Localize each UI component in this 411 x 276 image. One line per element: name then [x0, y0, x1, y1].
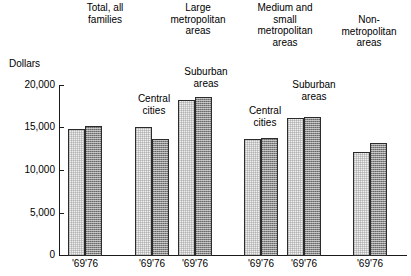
bar-76-total-all-families — [85, 126, 102, 256]
xtick-label-69: '69 — [182, 258, 195, 269]
y-tick-15000 — [60, 127, 64, 128]
xtick-label-69: '69 — [357, 258, 370, 269]
xtick-group-3: '69'76 — [167, 258, 223, 269]
xtick-label-69: '69 — [248, 258, 261, 269]
bar-69-large-central-cities — [135, 127, 152, 256]
y-tick-label-5000: 5,000 — [4, 208, 55, 218]
y-tick-label-20000: 20,000 — [4, 80, 55, 90]
y-tick-10000 — [60, 170, 64, 171]
y-tick-label-15000: 15,000 — [4, 122, 55, 132]
group-caption-large-metro: Large metropolitan areas — [148, 2, 248, 37]
xtick-label-69: '69 — [72, 258, 85, 269]
y-tick-label-0: 0 — [4, 250, 55, 260]
group-caption-medium-small-metro: Medium and small metropolitan areas — [239, 2, 331, 48]
sub-caption-large-suburban-areas: Suburban areas — [175, 66, 237, 89]
y-axis-title: Dollars — [9, 58, 40, 69]
xtick-label-76: '76 — [195, 258, 208, 269]
xtick-group-1: '69'76 — [57, 258, 113, 269]
xtick-label-76: '76 — [152, 258, 165, 269]
bar-69-medsmall-suburban-areas — [287, 118, 304, 256]
bar-76-medsmall-central-cities — [261, 138, 278, 256]
bar-69-large-suburban-areas — [178, 100, 195, 256]
sub-caption-medsmall-central-cities: Central cities — [237, 105, 293, 128]
xtick-group-5: '69'76 — [276, 258, 332, 269]
xtick-label-69: '69 — [139, 258, 152, 269]
y-tick-label-10000: 10,000 — [4, 165, 55, 175]
y-tick-20000 — [60, 85, 64, 86]
bar-69-nonmetro — [353, 152, 370, 256]
xtick-label-76: '76 — [370, 258, 383, 269]
xtick-label-76: '76 — [261, 258, 274, 269]
bar-76-large-suburban-areas — [195, 97, 212, 256]
bar-76-nonmetro — [370, 143, 387, 256]
xtick-label-76: '76 — [304, 258, 317, 269]
group-caption-nonmetro: Non- metropolitan areas — [329, 14, 409, 49]
sub-caption-medsmall-suburban-areas: Suburban areas — [283, 79, 345, 102]
bar-chart: Total, all families Large metropolitan a… — [0, 0, 411, 276]
bar-76-large-central-cities — [152, 139, 169, 256]
group-caption-total: Total, all families — [62, 2, 148, 25]
xtick-group-6: '69'76 — [342, 258, 398, 269]
bar-69-medsmall-central-cities — [244, 139, 261, 256]
y-tick-5000 — [60, 213, 64, 214]
bar-69-total-all-families — [68, 129, 85, 256]
bar-76-medsmall-suburban-areas — [304, 117, 321, 256]
xtick-label-69: '69 — [291, 258, 304, 269]
sub-caption-large-central-cities: Central cities — [126, 93, 182, 116]
xtick-label-76: '76 — [85, 258, 98, 269]
